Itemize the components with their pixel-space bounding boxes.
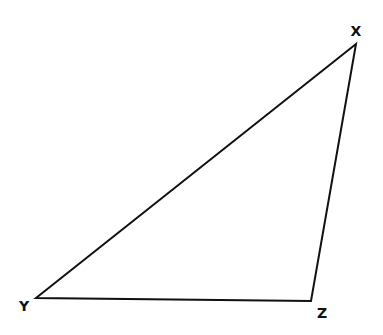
vertex-label-y: Y xyxy=(18,298,30,314)
vertex-label-x: X xyxy=(351,23,362,39)
triangle-diagram: X Y Z xyxy=(0,0,383,335)
triangle-xyz xyxy=(36,44,356,301)
vertex-label-z: Z xyxy=(317,305,327,321)
